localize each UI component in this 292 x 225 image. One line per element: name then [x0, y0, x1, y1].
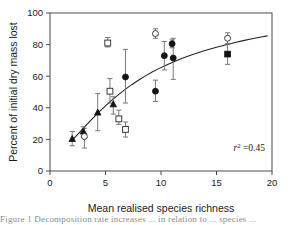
data-point-square-open — [116, 116, 122, 122]
data-point-circle-filled — [122, 74, 128, 80]
x-tick-label: 20 — [267, 177, 278, 188]
y-tick-label: 0 — [38, 165, 43, 176]
data-point-triangle-filled — [110, 101, 116, 107]
y-tick-label: 60 — [32, 71, 43, 82]
y-tick-label: 80 — [32, 39, 43, 50]
data-point-circle-filled — [169, 41, 175, 47]
data-point-triangle-filled — [95, 109, 101, 115]
data-point-square-open — [123, 127, 129, 133]
x-tick-label: 10 — [156, 177, 167, 188]
scatter-chart: 05101520020406080100 r2 =0.45 Mean reali… — [0, 0, 292, 225]
y-tick-label: 20 — [32, 134, 43, 145]
data-point-square-open — [105, 40, 111, 46]
data-point-circle-open — [81, 134, 87, 140]
r-squared-annotation: r2 =0.45 — [234, 142, 266, 154]
data-point-circle-open — [152, 31, 158, 37]
y-tick-label: 40 — [32, 102, 43, 113]
x-tick-label: 5 — [103, 177, 108, 188]
data-point-square-open — [107, 88, 113, 94]
data-point-square-filled — [225, 51, 231, 57]
data-point-circle-filled — [170, 55, 176, 61]
y-axis-title: Percent of initial dry mass lost — [7, 22, 19, 162]
data-point-circle-open — [225, 35, 231, 41]
error-bars — [70, 29, 231, 148]
fit-curve — [72, 36, 267, 140]
data-point-circle-filled — [161, 53, 167, 59]
x-tick-label: 0 — [47, 177, 52, 188]
x-axis-title: Mean realised species richness — [88, 202, 235, 214]
x-tick-label: 15 — [211, 177, 222, 188]
y-tick-label: 100 — [27, 7, 43, 18]
data-point-circle-filled — [152, 88, 158, 94]
figure-caption-partial: Figure 1 Decomposition rate increases ..… — [0, 214, 292, 225]
figure-root: 05101520020406080100 r2 =0.45 Mean reali… — [0, 0, 292, 225]
data-markers — [69, 31, 231, 142]
